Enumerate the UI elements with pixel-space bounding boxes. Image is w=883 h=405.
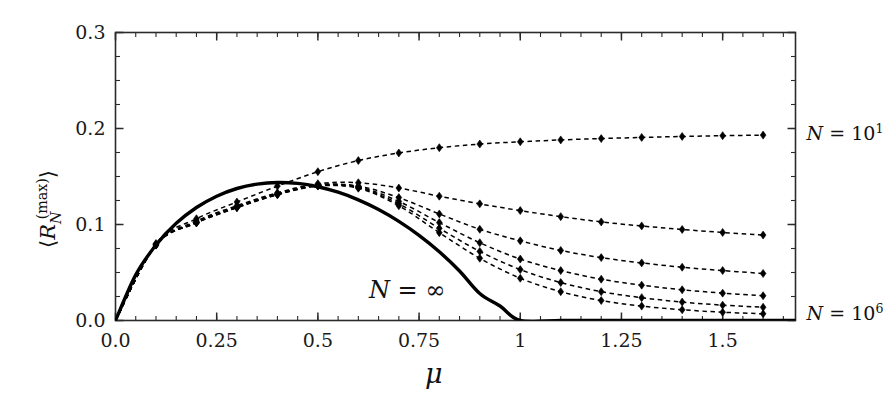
x-tick-label: 1.5 [663, 329, 783, 351]
data-point-marker [517, 266, 523, 274]
data-point-marker [598, 288, 604, 296]
data-point-marker [558, 136, 564, 144]
annotation-value: 10 [851, 122, 875, 144]
data-point-marker [517, 138, 523, 146]
annotation-variable: N [369, 276, 390, 304]
data-point-marker [760, 131, 766, 139]
data-point-marker [477, 225, 483, 233]
data-point-marker [639, 281, 645, 289]
data-point-marker [436, 144, 442, 152]
data-point-marker [598, 135, 604, 143]
data-point-marker [355, 157, 361, 165]
series-0-line [116, 182, 796, 321]
plot-frame [116, 33, 796, 321]
data-point-marker [639, 302, 645, 310]
data-point-marker [679, 306, 685, 314]
data-point-marker [639, 294, 645, 302]
data-point-marker [477, 254, 483, 262]
y-axis-label: ⟨RN(max)⟩ [34, 170, 64, 248]
data-point-marker [720, 228, 726, 236]
data-point-marker [679, 225, 685, 233]
data-point-marker [558, 288, 564, 296]
data-point-marker [517, 255, 523, 263]
data-point-marker [639, 222, 645, 230]
data-point-marker [679, 286, 685, 294]
data-point-marker [517, 237, 523, 245]
data-point-marker [679, 263, 685, 271]
data-point-marker [598, 218, 604, 226]
data-point-marker [598, 297, 604, 305]
annotation-equals: = [823, 122, 851, 144]
annotation-variable: N [807, 122, 824, 144]
data-point-marker [517, 207, 523, 215]
annotation-variable: N [807, 303, 824, 325]
y-tick-label: 0.2 [46, 117, 106, 139]
data-point-marker [720, 267, 726, 275]
data-point-marker [639, 259, 645, 267]
data-point-marker [558, 246, 564, 254]
data-point-marker [720, 308, 726, 316]
data-series-group [116, 131, 796, 321]
y-tick-label: 0.0 [46, 309, 106, 331]
y-axis-label-right-bracket: ⟩ [36, 170, 60, 178]
data-point-marker [679, 298, 685, 306]
n-10e6-annotation: N = 106 [807, 301, 883, 324]
data-point-marker [760, 310, 766, 318]
data-point-marker [720, 289, 726, 297]
data-point-marker [396, 184, 402, 192]
annotation-exponent: 1 [875, 121, 883, 136]
annotation-equals: = [390, 276, 425, 304]
data-point-marker [477, 140, 483, 148]
data-point-marker [315, 168, 321, 176]
data-point-marker [639, 133, 645, 141]
data-point-marker [558, 213, 564, 221]
annotation-equals: = [823, 303, 851, 325]
data-point-marker [558, 267, 564, 275]
data-point-marker [760, 269, 766, 277]
data-point-marker [760, 231, 766, 239]
annotation-value: ∞ [425, 276, 445, 304]
axis-ticks [116, 33, 796, 321]
data-point-marker [720, 132, 726, 140]
data-point-marker [598, 275, 604, 283]
annotation-value: 10 [851, 303, 875, 325]
y-tick-label: 0.3 [46, 21, 106, 43]
data-point-marker [396, 149, 402, 157]
data-point-marker [436, 210, 442, 218]
data-point-marker [517, 274, 523, 282]
data-point-marker [436, 192, 442, 200]
y-tick-label: 0.1 [46, 213, 106, 235]
data-point-marker [679, 132, 685, 140]
n-infinity-annotation: N = ∞ [369, 276, 445, 304]
y-axis-label-left-bracket: ⟨ [36, 240, 60, 248]
data-point-marker [477, 200, 483, 208]
n-10e1-annotation: N = 101 [807, 121, 883, 144]
data-point-marker [558, 279, 564, 287]
data-point-marker [598, 254, 604, 262]
x-axis-label: μ [425, 358, 443, 389]
annotation-exponent: 6 [875, 301, 883, 316]
data-point-marker [760, 292, 766, 300]
data-point-marker [477, 239, 483, 247]
